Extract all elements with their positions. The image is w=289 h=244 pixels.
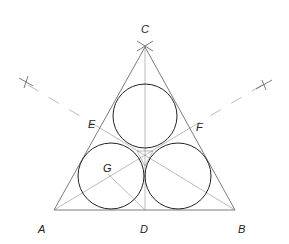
side-bc xyxy=(145,47,235,210)
circle-right xyxy=(145,143,211,209)
label-a: A xyxy=(37,223,45,235)
label-e: E xyxy=(88,118,96,130)
arc-mark-left xyxy=(19,76,33,88)
label-g: G xyxy=(103,162,112,174)
bisector-be xyxy=(100,128,235,210)
bisector-af xyxy=(54,128,190,210)
side-ac xyxy=(54,47,145,210)
circle-left xyxy=(78,143,144,209)
label-d: D xyxy=(140,223,148,235)
label-f: F xyxy=(196,121,204,133)
construction-diagram: C A D B E F G xyxy=(0,0,289,244)
label-b: B xyxy=(238,223,245,235)
arc-mark-right xyxy=(256,80,272,90)
label-c: C xyxy=(141,23,149,35)
